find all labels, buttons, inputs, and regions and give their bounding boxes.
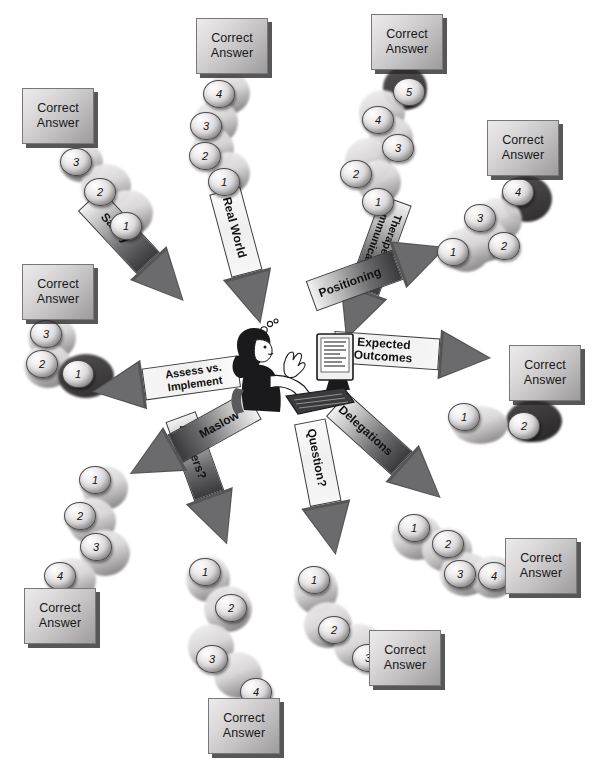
bead-maslow-1: 1 [79,466,111,494]
correct-answer-box-maslow: Correct Answer [24,588,96,644]
bead-answers-3: 3 [196,645,228,673]
correct-answer-line2: Answer [386,42,428,57]
bead-positioning-4: 4 [502,178,534,206]
bead-maslow-3: 3 [80,533,112,561]
correct-answer-line1: Correct [384,643,426,658]
arrow-head-fill-question [304,503,356,558]
bead-maslow-2: 2 [64,502,96,530]
bead-delegations-1: 1 [398,514,430,542]
bead-therapeutic-communication-1: 1 [362,188,394,216]
bead-real-world-4: 4 [203,80,235,108]
bead-positioning-3: 3 [464,204,496,232]
bead-delegations-2: 2 [432,530,464,558]
bead-delegations-3: 3 [444,560,476,588]
correct-answer-box-safety: Correct Answer [22,88,94,144]
correct-answer-line2: Answer [37,116,79,131]
bead-answers-2: 2 [215,594,247,622]
bead-therapeutic-communication-2: 2 [340,160,372,188]
correct-answer-line1: Correct [520,551,562,566]
correct-answer-box-answers: Correct Answer [208,698,280,754]
correct-answer-line1: Correct [211,31,253,46]
correct-answer-line2: Answer [384,658,426,673]
bead-real-world-1: 1 [208,168,240,196]
bead-therapeutic-communication-5: 5 [393,78,425,106]
bead-question-1: 1 [298,566,330,594]
correct-answer-line1: Correct [223,711,265,726]
center-illustration [224,316,374,428]
correct-answer-line1: Correct [502,133,544,148]
bead-answers-1: 1 [189,558,221,586]
correct-answer-box-assess-vs-implement: Correct Answer [22,264,94,320]
correct-answer-box-therapeutic-communication: Correct Answer [371,14,443,70]
correct-answer-line2: Answer [37,292,79,307]
correct-answer-line2: Answer [223,726,265,741]
bead-assess-vs-implement-2: 2 [26,350,58,378]
arrow-head-fill-assess-vs-implement [91,363,144,413]
bead-assess-vs-implement-3: 3 [30,320,62,348]
nurse-at-computer-icon [224,316,374,428]
bead-real-world-2: 2 [189,142,221,170]
bead-expected-outcomes-1: 1 [448,403,480,431]
correct-answer-line2: Answer [39,616,81,631]
bead-positioning-1: 1 [437,238,469,266]
bead-maslow-4: 4 [44,562,76,590]
bead-expected-outcomes-2: 2 [508,412,540,440]
bead-question-2: 2 [318,616,350,644]
correct-answer-box-delegations: Correct Answer [505,538,577,594]
correct-answer-line2: Answer [524,373,566,388]
correct-answer-box-real-world: Correct Answer [196,18,268,74]
bead-assess-vs-implement-1: 1 [62,360,94,388]
bead-real-world-3: 3 [190,112,222,140]
bead-safety-2: 2 [84,178,116,206]
bead-safety-1: 1 [110,212,142,240]
bead-safety-3: 3 [60,148,92,176]
bead-therapeutic-communication-3: 3 [382,134,414,162]
correct-answer-box-question: Correct Answer [369,630,441,686]
correct-answer-box-expected-outcomes: Correct Answer [509,345,581,401]
correct-answer-line2: Answer [211,46,253,61]
bead-positioning-2: 2 [488,232,520,260]
diagram-canvas: Correct Answer 3 2 1 Safety Correct Answ… [0,0,599,763]
bead-therapeutic-communication-4: 4 [362,106,394,134]
correct-answer-box-positioning: Correct Answer [487,120,559,176]
correct-answer-line2: Answer [502,148,544,163]
correct-answer-line2: Answer [520,566,562,581]
correct-answer-line1: Correct [524,358,566,373]
arrow-head-fill-expected-outcomes [441,333,491,380]
correct-answer-line1: Correct [37,101,79,116]
correct-answer-line1: Correct [386,27,428,42]
correct-answer-line1: Correct [39,601,81,616]
correct-answer-line1: Correct [37,277,79,292]
